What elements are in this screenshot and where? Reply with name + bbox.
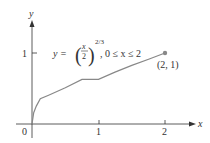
fraction-denominator: 2	[82, 52, 86, 61]
y-axis-label: y	[28, 8, 34, 19]
fraction-numerator: x	[81, 42, 86, 51]
function-curve	[32, 53, 165, 124]
y-axis-arrow-icon	[30, 20, 35, 27]
equation-domain: , 0 ≤ x ≤ 2	[100, 48, 141, 59]
endpoint-label: (2, 1)	[157, 59, 179, 71]
origin-label: 0	[22, 126, 27, 137]
endpoint-marker	[163, 51, 167, 55]
paren-open: (	[75, 44, 82, 67]
equation-lhs: y =	[52, 48, 67, 59]
exponent: 2/3	[95, 38, 104, 46]
x-axis-arrow-icon	[189, 122, 196, 127]
x-tick-label-2: 2	[162, 126, 167, 137]
function-graph: y x 0 1 2 1 y = ( x 2 ) 2/3 , 0 ≤ x ≤ 2 …	[0, 0, 210, 143]
equation: y = ( x 2 ) 2/3 , 0 ≤ x ≤ 2	[52, 38, 141, 67]
y-tick-label-1: 1	[22, 48, 27, 59]
x-axis-label: x	[197, 118, 203, 129]
x-tick-label-1: 1	[96, 126, 101, 137]
paren-close: )	[88, 44, 95, 67]
